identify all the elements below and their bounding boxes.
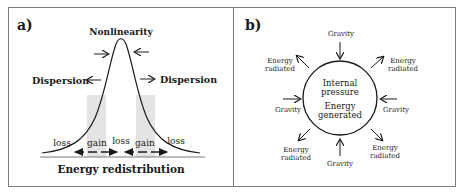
svg-text:Energy: Energy bbox=[372, 144, 398, 152]
svg-text:radiated: radiated bbox=[388, 65, 418, 73]
svg-text:radiated: radiated bbox=[265, 65, 295, 73]
svg-text:Energy: Energy bbox=[267, 57, 293, 65]
gravity-label-left: Gravity bbox=[275, 106, 301, 114]
loss-label-1: loss bbox=[53, 138, 71, 148]
dispersion-label-left: Dispersion bbox=[32, 75, 89, 86]
loss-label-3: loss bbox=[167, 136, 185, 146]
panel-a-label: a) bbox=[17, 17, 33, 33]
loss-label-2: loss bbox=[112, 136, 130, 146]
svg-text:Energy: Energy bbox=[283, 146, 309, 154]
svg-text:radiated: radiated bbox=[281, 154, 311, 162]
internal-pressure-line2: pressure bbox=[321, 87, 359, 97]
svg-text:radiated: radiated bbox=[370, 152, 400, 160]
gain-label-1: gain bbox=[87, 138, 107, 148]
energy-radiated-bottom-right: Energy radiated bbox=[370, 144, 400, 160]
energy-radiated-bottom-left: Energy radiated bbox=[281, 146, 311, 162]
figure: a) Nonlinearity Dispersion Dispersion lo… bbox=[0, 0, 462, 195]
dispersion-label-right: Dispersion bbox=[160, 74, 217, 85]
panel-b: b) Internal pressure Energy generated Gr… bbox=[234, 8, 456, 187]
panel-b-label: b) bbox=[245, 17, 261, 33]
svg-text:Energy: Energy bbox=[390, 57, 416, 65]
energy-radiated-top-left: Energy radiated bbox=[265, 57, 295, 73]
energy-generated-line2: generated bbox=[318, 110, 363, 120]
gravity-label-right: Gravity bbox=[383, 106, 409, 114]
energy-radiated-top-right: Energy radiated bbox=[388, 57, 418, 73]
gain-label-2: gain bbox=[135, 138, 155, 148]
nonlinearity-label: Nonlinearity bbox=[89, 27, 153, 37]
panel-a: a) Nonlinearity Dispersion Dispersion lo… bbox=[9, 8, 234, 187]
gravity-label-bottom: Gravity bbox=[327, 160, 353, 168]
energy-redistribution-caption: Energy redistribution bbox=[57, 163, 185, 175]
gravity-label-top: Gravity bbox=[328, 30, 354, 38]
